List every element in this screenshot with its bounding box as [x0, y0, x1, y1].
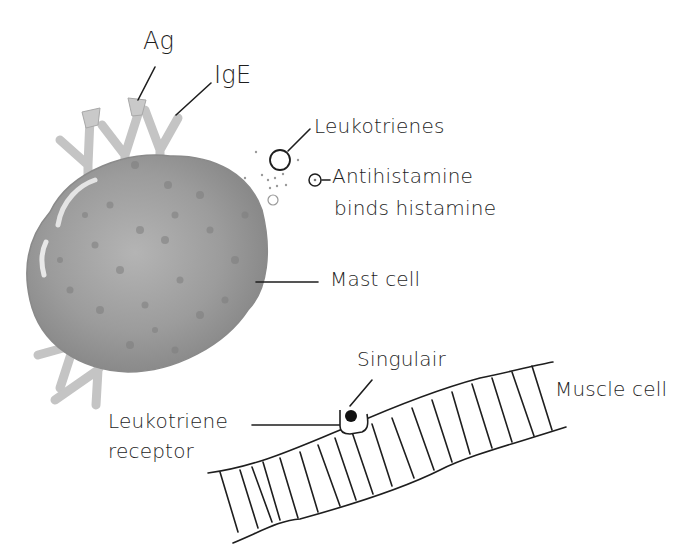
leukotriene-vesicle-icon: [270, 150, 290, 170]
label-leukotrienes: Leukotrienes: [314, 115, 445, 137]
label-ag: Ag: [143, 28, 174, 54]
label-leukotriene-receptor-line2: receptor: [108, 440, 194, 462]
muscle-cell: [208, 362, 566, 543]
label-singulair: Singulair: [357, 348, 446, 370]
label-leukotriene-receptor-line1: Leukotriene: [108, 410, 228, 432]
label-ige: IgE: [214, 62, 251, 88]
histamine-granule-icon: [268, 195, 278, 205]
diagram-canvas: Ag IgE Leukotrienes Antihistamine binds …: [0, 0, 700, 549]
label-muscle-cell: Muscle cell: [555, 378, 667, 400]
singulair-molecule-icon: [345, 410, 357, 422]
label-mast-cell: Mast cell: [330, 268, 420, 290]
label-antihistamine-line2: binds histamine: [334, 197, 496, 219]
label-antihistamine-line1: Antihistamine: [332, 165, 473, 187]
mast-cell-body: [27, 155, 267, 372]
